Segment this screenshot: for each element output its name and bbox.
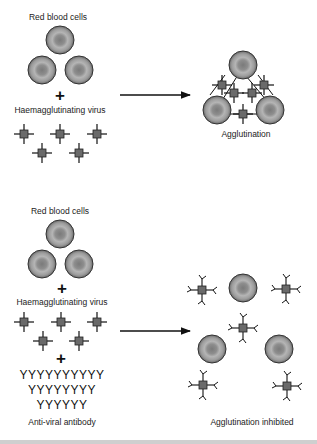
virus-particle-icon [14, 312, 34, 332]
agglutination-inhibited-label: Agglutination inhibited [210, 417, 293, 427]
agglutination-label: Agglutination [221, 129, 270, 139]
virus-particle-icon [32, 143, 52, 163]
virus-particle-icon [69, 143, 89, 163]
red-blood-cell-icon [265, 335, 293, 363]
red-blood-cell-icon [229, 274, 257, 302]
plus-sign: + [57, 279, 67, 298]
virus-particle-icon [87, 124, 107, 144]
virus-particle-icon [33, 331, 53, 351]
red-blood-cell-icon [46, 26, 74, 54]
virus-particle-icon [50, 124, 70, 144]
virus-particle-icon [14, 124, 34, 144]
red-blood-cell-icon [28, 250, 56, 278]
red-blood-cell-icon [198, 335, 226, 363]
antibody-row: YYYYYYYY [28, 383, 96, 397]
rbc-label-bottom: Red blood cells [31, 206, 89, 216]
antibody-coated-virus-icon [187, 275, 217, 305]
virus-particle-icon [87, 312, 107, 332]
red-blood-cell-icon [28, 56, 56, 84]
virus-label-top: Haemagglutinating virus [14, 105, 105, 115]
virus-particle-icon [69, 331, 89, 351]
red-blood-cell-icon [46, 220, 74, 248]
antibody-coated-virus-icon [228, 313, 258, 343]
red-blood-cell-icon [65, 250, 93, 278]
plus-sign: + [56, 349, 66, 368]
antibody-row: YYYYYY [36, 398, 87, 412]
antibody-coated-virus-icon [272, 371, 302, 401]
virus-particle-icon [51, 312, 71, 332]
virus-particle-icon [212, 75, 232, 95]
antibody-label: Anti-viral antibody [28, 417, 96, 427]
antibody-coated-virus-icon [271, 274, 301, 304]
red-blood-cell-icon [65, 56, 93, 84]
virus-particle-icon [242, 83, 262, 103]
haemagglutination-diagram: Red blood cells + Haemagglutinating viru… [0, 0, 317, 444]
virus-label-bottom: Haemagglutinating virus [16, 297, 107, 307]
antibody-row: YYYYYYYYYY [19, 368, 104, 382]
agglutination-cluster [203, 51, 284, 124]
antibody-coated-virus-icon [188, 370, 218, 400]
bottom-edge-bar [0, 440, 317, 444]
plus-sign: + [55, 86, 65, 105]
rbc-label-top: Red blood cells [29, 12, 87, 22]
virus-particle-icon [233, 104, 253, 124]
